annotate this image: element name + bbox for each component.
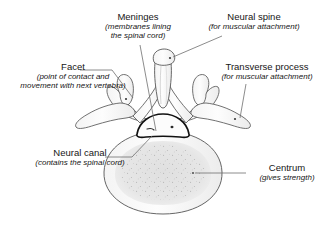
callout-neural-spine-desc-line1: (for muscular attachment) xyxy=(188,23,320,32)
leader-line-transverse-process xyxy=(240,84,246,118)
vertebra-diagram-page: Meninges (membranes lining the spinal co… xyxy=(0,0,327,227)
callout-neural-canal-desc-line1: (contains the spinal cord) xyxy=(16,159,144,168)
centrum-marker-dot xyxy=(192,172,194,174)
callout-transverse-process: Transverse process (for muscular attachm… xyxy=(207,62,327,82)
callout-meninges: Meninges (membranes lining the spinal co… xyxy=(88,12,188,41)
neural-spine-marker-dot xyxy=(169,57,171,59)
left-facet-marker-dot xyxy=(125,98,127,100)
callout-neural-canal: Neural canal (contains the spinal cord) xyxy=(16,148,144,168)
neural-canal-mark-right xyxy=(171,126,174,129)
callout-meninges-desc-line2: the spinal cord) xyxy=(88,32,188,41)
callout-neural-spine: Neural spine (for muscular attachment) xyxy=(188,12,320,32)
callout-transverse-process-desc-line1: (for muscular attachment) xyxy=(207,73,327,82)
callout-centrum: Centrum (gives strength) xyxy=(248,163,326,183)
neural-spine-tip xyxy=(153,49,175,65)
left-transverse-process xyxy=(76,103,136,128)
right-transverse-marker-dot xyxy=(234,118,236,120)
callout-facet: Facet (point of contact and movement wit… xyxy=(2,62,144,91)
right-transverse-process xyxy=(191,103,251,128)
callout-facet-desc-line2: movement with next vertebra) xyxy=(2,82,144,91)
callout-centrum-desc-line1: (gives strength) xyxy=(248,174,326,183)
